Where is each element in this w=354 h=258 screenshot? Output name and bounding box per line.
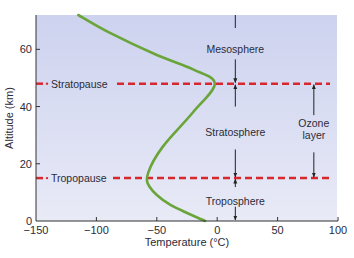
y-tick-label: 40 [20,101,32,113]
mesosphere-label: Mesosphere [206,43,264,55]
x-tick-label: 100 [329,224,347,236]
ozone-label: Ozone [298,117,329,129]
atmosphere-chart: StratopauseTropopause MesosphereStratosp… [0,0,354,258]
x-tick-label: 50 [271,224,283,236]
y-axis-label: Altitude (km) [3,87,15,149]
reference-line-label: Tropopause [51,172,107,184]
x-axis-label: Temperature (°C) [145,236,229,248]
stratosphere-label: Stratosphere [205,126,265,138]
plot-area: StratopauseTropopause MesosphereStratosp… [3,15,347,248]
x-tick-label: −50 [147,224,166,236]
y-tick-label: 0 [26,215,32,227]
y-tick-label: 20 [20,158,32,170]
x-tick-label: 0 [214,224,220,236]
ozone-label: layer [302,129,325,141]
x-tick-label: −100 [84,224,109,236]
y-tick-label: 60 [20,43,32,55]
troposphere-label: Troposphere [206,195,265,207]
reference-line-label: Stratopause [51,78,108,90]
